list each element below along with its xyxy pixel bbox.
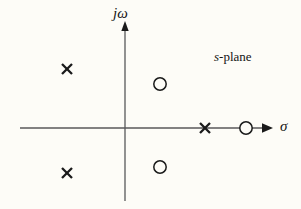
imaginary-axis-label-omega: ω xyxy=(117,5,128,21)
s-plane-figure: jω σ s-plane xyxy=(0,0,301,209)
pole-marker-upper-left xyxy=(62,64,72,74)
zero-marker-real-axis xyxy=(240,122,252,134)
real-axis-arrowhead xyxy=(262,123,273,133)
pole-marker-lower-left xyxy=(62,168,72,178)
s-plane-diagram xyxy=(0,0,301,209)
imaginary-axis-arrowhead xyxy=(121,21,128,31)
zero-marker-lower xyxy=(154,161,166,173)
s-plane-label-suffix: -plane xyxy=(219,49,251,64)
s-plane-label: s-plane xyxy=(214,50,252,63)
imaginary-axis-label: jω xyxy=(113,6,128,21)
real-axis-label: σ xyxy=(280,119,287,134)
zero-marker-upper xyxy=(154,78,166,90)
